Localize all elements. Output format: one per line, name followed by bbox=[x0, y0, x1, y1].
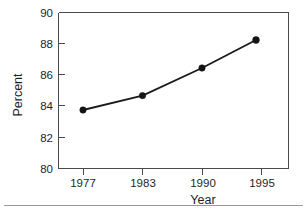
y-axis-title: Percent bbox=[11, 73, 25, 117]
ytick-label-86: 86 bbox=[40, 69, 53, 81]
data-point-1990 bbox=[199, 65, 205, 71]
footer-divider bbox=[4, 205, 303, 206]
xtick-label-1977: 1977 bbox=[70, 177, 96, 189]
xtick-label-1983: 1983 bbox=[130, 177, 156, 189]
line-chart: 90 88 86 84 82 80 1977 1983 1990 1995 Ye… bbox=[0, 0, 307, 212]
axis-frame bbox=[59, 13, 289, 169]
data-point-1977 bbox=[80, 107, 86, 113]
data-point-1995 bbox=[253, 37, 260, 44]
ytick-label-84: 84 bbox=[40, 100, 53, 112]
chart-figure: 90 88 86 84 82 80 1977 1983 1990 1995 Ye… bbox=[0, 0, 307, 212]
xtick-label-1995: 1995 bbox=[249, 177, 275, 189]
ytick-label-90: 90 bbox=[40, 7, 53, 19]
ytick-label-82: 82 bbox=[40, 132, 53, 144]
data-point-1983 bbox=[139, 92, 145, 98]
xtick-label-1990: 1990 bbox=[190, 177, 216, 189]
series-line-percent bbox=[83, 40, 256, 110]
ytick-label-88: 88 bbox=[40, 38, 53, 50]
axis-frame-top-right bbox=[59, 13, 289, 169]
ytick-label-80: 80 bbox=[40, 163, 53, 175]
